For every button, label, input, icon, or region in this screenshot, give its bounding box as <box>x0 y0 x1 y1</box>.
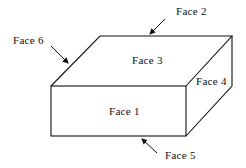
face5-arrow <box>142 139 157 153</box>
face2-label: Face 2 <box>176 5 207 17</box>
face5-label: Face 5 <box>165 149 196 161</box>
face1-label: Face 1 <box>109 105 140 117</box>
face6-arrow <box>51 46 68 63</box>
face2-arrow <box>150 19 165 34</box>
face4-label: Face 4 <box>196 75 227 87</box>
face3-label: Face 3 <box>132 54 163 66</box>
face6-label: Face 6 <box>13 34 44 46</box>
